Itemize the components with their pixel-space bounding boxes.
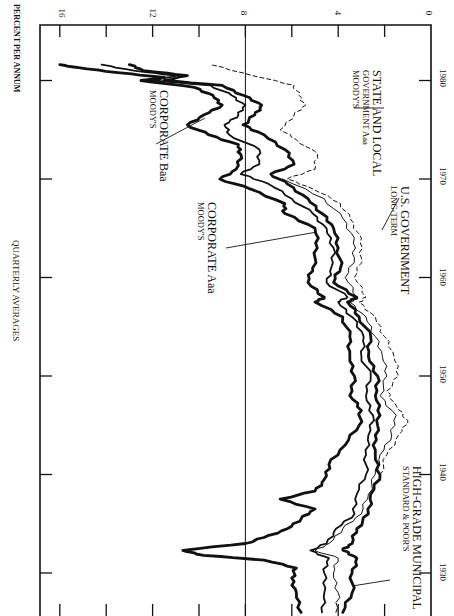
series-line-high-grade-municipal — [283, 179, 397, 612]
label-corporate-baa-sub: MOODY'S — [149, 90, 158, 182]
x-tick-label-1980: 1980 — [438, 69, 448, 87]
chart-title: QUARTERLY AVERAGES — [11, 240, 21, 341]
label-us-government-main: U.S. GOVERNMENT — [399, 186, 411, 294]
label-corporate-aaa-sub: MOODY'S — [197, 202, 206, 294]
y-tick-label-8: 8 — [239, 11, 249, 16]
y-tick-label-12: 12 — [148, 9, 158, 18]
label-state-local-main: STATE AND LOCAL — [371, 70, 383, 176]
y-tick-label-4: 4 — [333, 11, 343, 16]
series-line-corporate-baa — [60, 65, 362, 613]
x-tick-label-1930: 1930 — [438, 563, 448, 581]
label-state-local-sub2: MOODY'S — [352, 70, 361, 176]
label-state-local-sub1: GOVERNMENT Aaa — [362, 70, 371, 176]
label-high-grade-municipal-sub: STANDARD & POOR'S — [402, 466, 411, 610]
label-us-government-sub: LONG-TERM — [390, 186, 399, 294]
label-corporate-aaa-main: CORPORATE Aaa — [206, 202, 218, 294]
y-axis-title: PERCENT PER ANNUM — [12, 4, 21, 92]
leader-high-grade-municipal — [352, 580, 390, 586]
x-tick-label-1960: 1960 — [438, 268, 448, 286]
label-high-grade-municipal-main: HIGH-GRADE MUNICIPAL — [411, 466, 423, 610]
leader-corporate-aaa — [226, 232, 317, 248]
label-corporate-baa-main: CORPORATE Baa — [158, 90, 170, 182]
label-high-grade-municipal: HIGH-GRADE MUNICIPAL STANDARD & POOR'S — [402, 466, 424, 610]
x-tick-label-1970: 1970 — [438, 167, 448, 185]
label-corporate-aaa: CORPORATE Aaa MOODY'S — [197, 202, 219, 294]
label-us-government: U.S. GOVERNMENT LONG-TERM — [390, 186, 412, 294]
label-corporate-baa: CORPORATE Baa MOODY'S — [149, 90, 171, 182]
label-state-local: STATE AND LOCAL GOVERNMENT Aaa MOODY'S — [352, 70, 383, 176]
x-tick-label-1940: 1940 — [438, 463, 448, 481]
yield-chart — [0, 0, 454, 616]
x-tick-label-1950: 1950 — [438, 365, 448, 383]
y-tick-label-16: 16 — [57, 9, 67, 18]
y-tick-label-0: 0 — [424, 11, 434, 16]
